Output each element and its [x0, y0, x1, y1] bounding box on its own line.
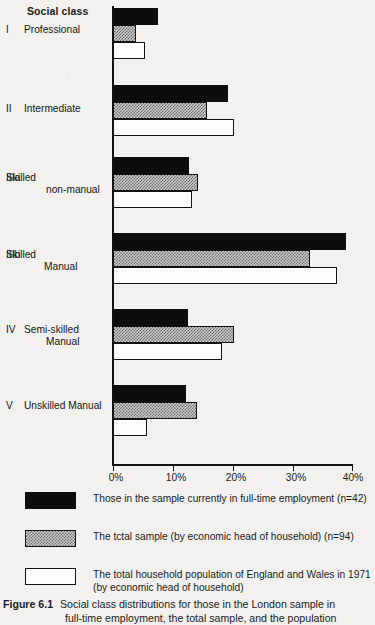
legend-label-3: The total household population of Englan…: [93, 569, 375, 594]
x-tick-1: [173, 465, 174, 471]
category-label-3: IIIaSkilled non-manual: [6, 172, 110, 196]
bar-series3-cat6: [113, 419, 147, 436]
x-tick-3: [293, 465, 294, 471]
bar-series1-cat2: [113, 85, 228, 102]
x-tick-label-2: 20%: [226, 472, 246, 483]
category-number-2: II: [6, 103, 24, 115]
bar-series2-cat2: [113, 102, 207, 119]
category-text-5-line2: Manual: [6, 336, 110, 348]
category-label-1: IProfessional: [6, 24, 110, 36]
category-text-1: Professional: [24, 24, 80, 35]
category-text-4: Skilled: [6, 249, 36, 260]
bar-series1-cat1: [113, 8, 158, 25]
bar-series3-cat4: [113, 267, 337, 284]
category-label-2: IIIntermediate: [6, 103, 110, 115]
legend-swatch-hatched: [25, 530, 76, 547]
category-text-3-line2: non-manual: [6, 184, 110, 196]
bar-series1-cat3: [113, 157, 189, 174]
bar-series2-cat5: [113, 326, 234, 343]
category-number-6: V: [6, 400, 24, 412]
bar-series1-cat5: [113, 309, 188, 326]
category-text-5: Semi-skilled: [24, 324, 79, 335]
category-label-4: IIIbSkilled Manual: [6, 249, 110, 273]
bar-series3-cat5: [113, 343, 222, 360]
category-number-5: IV: [6, 324, 24, 336]
caption-line1: Social class distributions for those in …: [60, 598, 335, 610]
x-tick-2: [233, 465, 234, 471]
bar-chart: Social class IProfessional IIIntermediat…: [0, 0, 375, 470]
legend-label-2: The tctal sample (by economic head of ho…: [93, 531, 375, 544]
legend-swatch-white: [25, 568, 76, 585]
x-tick-label-4: 40%: [343, 472, 363, 483]
x-tick-label-0: 0%: [109, 472, 124, 483]
category-axis-line: [112, 6, 114, 465]
category-text-6: Unskilled Manual: [24, 400, 102, 411]
legend-label-3-line2: (by economic head of household): [93, 582, 375, 595]
caption-line2: full-time employment, the total sample, …: [3, 612, 375, 625]
legend-label-1: Those in the sample currently in full-ti…: [93, 493, 375, 506]
x-tick-label-1: 10%: [166, 472, 186, 483]
x-tick-label-3: 30%: [286, 472, 306, 483]
bar-series2-cat1: [113, 25, 136, 42]
x-tick-0: [113, 465, 114, 471]
category-text-4-line2: Manual: [6, 261, 110, 273]
category-label-6: VUnskilled Manual: [6, 400, 110, 412]
bar-series1-cat6: [113, 385, 186, 402]
category-text-3: Skilled: [6, 172, 36, 183]
bar-series3-cat3: [113, 191, 192, 208]
bar-series2-cat3: [113, 174, 198, 191]
figure-caption: Figure 6.1Social class distributions for…: [3, 598, 375, 625]
category-label-5: IVSemi-skilled Manual: [6, 324, 110, 348]
bar-series2-cat4: [113, 250, 310, 267]
x-tick-4: [352, 465, 353, 471]
category-number-1: I: [6, 24, 24, 36]
category-text-2: Intermediate: [24, 103, 81, 114]
category-axis-title: Social class: [27, 5, 88, 17]
bar-series3-cat2: [113, 119, 234, 136]
bar-series3-cat1: [113, 42, 145, 59]
bar-series2-cat6: [113, 402, 197, 419]
figure-number: Figure 6.1: [3, 598, 53, 610]
bar-series1-cat4: [113, 233, 346, 250]
legend-swatch-black: [25, 492, 76, 509]
legend-label-3-line1: The total household population of Englan…: [93, 569, 371, 580]
